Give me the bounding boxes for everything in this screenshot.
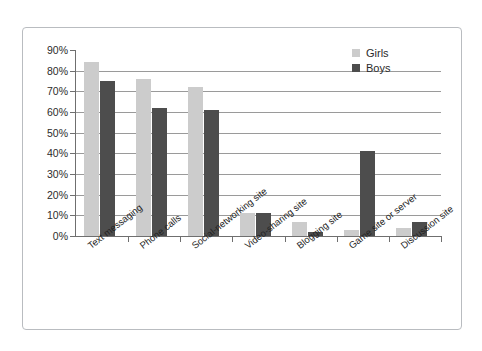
y-tick-mark-0 bbox=[70, 236, 76, 237]
bar-boys-2 bbox=[204, 110, 219, 236]
x-tick-mark-2 bbox=[232, 237, 233, 242]
bar-girls-0 bbox=[84, 62, 99, 236]
y-tick-label: 50% bbox=[28, 128, 68, 139]
bar-boys-6 bbox=[412, 222, 427, 236]
y-tick-label: 30% bbox=[28, 169, 68, 180]
bar-boys-1 bbox=[152, 108, 167, 236]
y-tick-mark-50 bbox=[70, 133, 76, 134]
bar-girls-5 bbox=[344, 230, 359, 236]
bar-boys-5 bbox=[360, 151, 375, 236]
bar-boys-3 bbox=[256, 213, 271, 236]
legend-swatch-icon bbox=[352, 64, 360, 72]
gridline-60 bbox=[76, 112, 441, 113]
y-tick-mark-40 bbox=[70, 153, 76, 154]
x-tick-mark-1 bbox=[180, 237, 181, 242]
y-tick-mark-20 bbox=[70, 195, 76, 196]
y-tick-mark-60 bbox=[70, 112, 76, 113]
y-tick-mark-70 bbox=[70, 91, 76, 92]
plot-area bbox=[76, 50, 441, 236]
gridline-50 bbox=[76, 133, 441, 134]
y-tick-mark-80 bbox=[70, 71, 76, 72]
x-tick-mark-3 bbox=[285, 237, 286, 242]
bar-boys-0 bbox=[100, 81, 115, 236]
y-tick-label: 80% bbox=[28, 66, 68, 77]
y-tick-label: 70% bbox=[28, 86, 68, 97]
legend-label: Boys bbox=[366, 63, 390, 74]
y-tick-label: 90% bbox=[28, 45, 68, 56]
x-axis-line bbox=[75, 236, 442, 237]
y-axis-tick-labels: 90%80%70%60%50%40%30%20%10%0% bbox=[22, 0, 68, 351]
legend-label: Girls bbox=[366, 48, 389, 59]
y-tick-label: 0% bbox=[28, 231, 68, 242]
legend-item-boys: Boys bbox=[352, 61, 438, 75]
y-tick-label: 60% bbox=[28, 107, 68, 118]
gridline-40 bbox=[76, 153, 441, 154]
bar-girls-1 bbox=[136, 79, 151, 236]
bar-girls-6 bbox=[396, 228, 411, 236]
x-tick-mark-5 bbox=[389, 237, 390, 242]
gridline-30 bbox=[76, 174, 441, 175]
legend-item-girls: Girls bbox=[352, 46, 438, 60]
y-tick-label: 40% bbox=[28, 148, 68, 159]
legend-swatch-icon bbox=[352, 49, 360, 57]
bar-girls-2 bbox=[188, 87, 203, 236]
x-tick-mark-6 bbox=[441, 237, 442, 242]
x-tick-mark-4 bbox=[337, 237, 338, 242]
y-tick-mark-90 bbox=[70, 50, 76, 51]
y-tick-label: 10% bbox=[28, 210, 68, 221]
bar-boys-4 bbox=[308, 232, 323, 236]
y-tick-mark-10 bbox=[70, 215, 76, 216]
y-tick-mark-30 bbox=[70, 174, 76, 175]
x-tick-mark-0 bbox=[128, 237, 129, 242]
chart-legend: GirlsBoys bbox=[352, 46, 438, 76]
gridline-20 bbox=[76, 195, 441, 196]
bar-girls-3 bbox=[240, 213, 255, 236]
gridline-70 bbox=[76, 91, 441, 92]
bar-girls-4 bbox=[292, 222, 307, 236]
y-tick-label: 20% bbox=[28, 190, 68, 201]
